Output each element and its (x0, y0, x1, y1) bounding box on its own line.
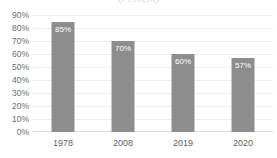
x-axis-tick-label: 1978 (33, 138, 93, 149)
y-axis-tick-label: 0% (0, 128, 29, 137)
chart-title: (Percent) (0, 0, 277, 4)
bar-slot: 60% (153, 15, 213, 132)
bar-value-label: 85% (55, 25, 71, 34)
y-axis-tick-label: 60% (0, 50, 29, 59)
bar-2020[interactable]: 57% (232, 58, 255, 132)
x-axis-tick-label: 2019 (153, 138, 213, 149)
y-axis-tick-label: 80% (0, 24, 29, 33)
y-axis-tick-label: 90% (0, 11, 29, 20)
bar-2019[interactable]: 60% (172, 54, 195, 132)
y-axis-tick-label: 50% (0, 63, 29, 72)
y-axis-tick-label: 40% (0, 76, 29, 85)
bar-value-label: 57% (235, 61, 251, 70)
bar-2008[interactable]: 70% (112, 41, 135, 132)
bar-value-label: 60% (175, 57, 191, 66)
bar-chart: (Percent) 90% 80% 70% 60% 50% 40% 30% 20… (0, 0, 277, 158)
bar-slot: 70% (93, 15, 153, 132)
y-axis-tick-label: 20% (0, 102, 29, 111)
y-axis-tick-label: 30% (0, 89, 29, 98)
bar-value-label: 70% (115, 44, 131, 53)
y-axis-tick-label: 70% (0, 37, 29, 46)
plot-area: 85% 70% 60% 57% (33, 15, 273, 132)
bar-slot: 85% (33, 15, 93, 132)
bar-1978[interactable]: 85% (52, 22, 75, 133)
x-axis-tick-label: 2020 (213, 138, 273, 149)
x-axis-tick-label: 2008 (93, 138, 153, 149)
y-axis-tick-label: 10% (0, 115, 29, 124)
bar-slot: 57% (213, 15, 273, 132)
